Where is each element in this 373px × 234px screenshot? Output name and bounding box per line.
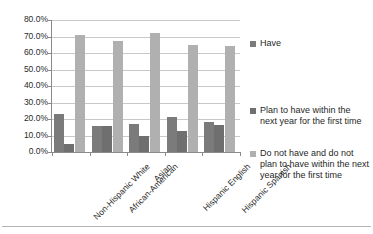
- legend-label: Have: [260, 38, 281, 49]
- bar: [225, 46, 235, 152]
- bar: [92, 126, 102, 152]
- legend-entry[interactable]: Have: [250, 38, 370, 49]
- bar-group: [90, 20, 128, 152]
- bar: [139, 136, 149, 153]
- bar-group: [52, 20, 90, 152]
- bar: [188, 45, 198, 152]
- legend-entry[interactable]: Do not have and do not plan to have with…: [250, 148, 370, 181]
- y-axis-tick-label: 40.0%: [4, 81, 48, 90]
- bar-chart-figure: 80.0%70.0%60.0%50.0%40.0%30.0%20.0%10.0%…: [0, 0, 373, 234]
- bar: [113, 41, 123, 152]
- bar-group: [202, 20, 240, 152]
- x-axis-tick-mark: [240, 152, 241, 156]
- bar: [214, 125, 224, 152]
- y-axis-tick-label: 10.0%: [4, 131, 48, 140]
- y-axis-tick-label: 80.0%: [4, 15, 48, 24]
- legend-swatch-icon: [250, 41, 256, 47]
- bar: [150, 33, 160, 152]
- legend-label: Do not have and do not plan to have with…: [260, 148, 370, 181]
- x-axis-tick-mark: [202, 152, 203, 156]
- x-axis-tick-mark: [165, 152, 166, 156]
- bar: [167, 117, 177, 152]
- legend-swatch-icon: [250, 151, 256, 157]
- x-axis-tick-mark: [90, 152, 91, 156]
- bar: [64, 144, 74, 152]
- bar-group: [165, 20, 203, 152]
- chart-legend: HavePlan to have within the next year fo…: [250, 20, 370, 210]
- plot-area: [52, 20, 240, 152]
- x-axis-tick-mark: [52, 152, 53, 156]
- bar: [129, 124, 139, 152]
- bar: [177, 131, 187, 152]
- legend-entry[interactable]: Plan to have within the next year for th…: [250, 105, 370, 127]
- y-axis-tick-label: 50.0%: [4, 65, 48, 74]
- y-axis-line: [51, 20, 52, 153]
- bar: [75, 35, 85, 152]
- x-axis-tick-mark: [127, 152, 128, 156]
- y-axis-tick-label: 20.0%: [4, 114, 48, 123]
- legend-label: Plan to have within the next year for th…: [260, 105, 370, 127]
- x-axis-labels: Non-Hispanic WhiteAfrican-AmericanAsianH…: [0, 152, 252, 234]
- bottom-divider: [2, 226, 371, 227]
- bar: [54, 114, 64, 152]
- y-axis-tick-label: 30.0%: [4, 98, 48, 107]
- bar: [204, 122, 214, 152]
- y-axis-tick-label: 60.0%: [4, 48, 48, 57]
- y-axis-tick-label: 70.0%: [4, 32, 48, 41]
- bar: [102, 126, 112, 152]
- legend-swatch-icon: [250, 108, 256, 114]
- bar-group: [127, 20, 165, 152]
